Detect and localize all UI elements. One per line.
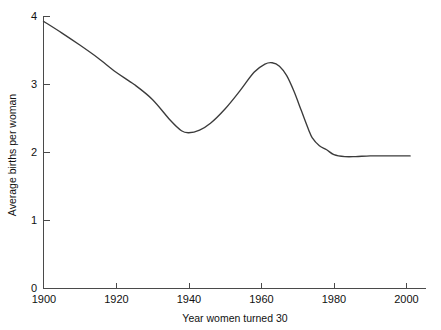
x-tick-label-2000: 2000	[394, 293, 418, 305]
x-axis-ticks	[117, 283, 407, 289]
y-axis-title: Average births per woman	[6, 94, 18, 217]
series-line-average-births	[44, 21, 411, 156]
y-tick-label-1: 1	[31, 214, 37, 226]
x-tick-label-1960: 1960	[249, 293, 273, 305]
x-tick-label-1980: 1980	[322, 293, 346, 305]
x-tick-label-1900: 1900	[32, 293, 56, 305]
y-tick-label-3: 3	[31, 78, 37, 90]
chart-container: 4 3 2 1 0 1900 1920 1940 1960 1980 2000 …	[0, 0, 441, 330]
x-tick-label-1920: 1920	[104, 293, 128, 305]
y-axis-ticks	[44, 17, 50, 221]
x-tick-label-1940: 1940	[177, 293, 201, 305]
y-tick-label-2: 2	[31, 146, 37, 158]
line-chart: 4 3 2 1 0 1900 1920 1940 1960 1980 2000 …	[0, 0, 441, 330]
x-axis-title: Year women turned 30	[182, 312, 287, 324]
y-tick-label-4: 4	[31, 10, 37, 22]
